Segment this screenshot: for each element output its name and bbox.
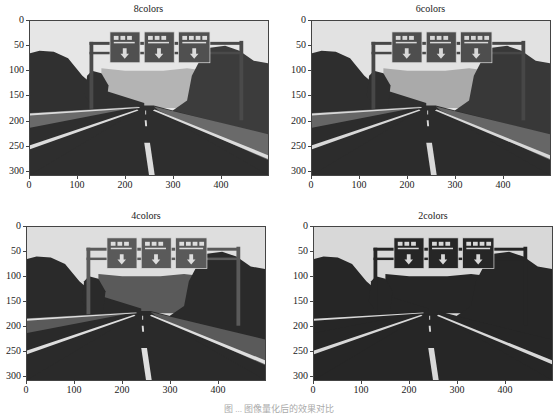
- y-tick-label: 50: [286, 246, 308, 256]
- x-tick-label: 100: [346, 385, 376, 395]
- subplot-title: 2colors: [313, 210, 553, 221]
- y-tick-label: 300: [286, 371, 308, 381]
- y-tick-label: 250: [286, 346, 308, 356]
- x-tick-mark: [457, 381, 458, 384]
- image-plot-area: [313, 226, 553, 381]
- x-tick-mark: [409, 381, 410, 384]
- road-scene-image: [314, 227, 552, 380]
- x-tick-mark: [505, 381, 506, 384]
- figure-caption: 图 ... 图像量化后的效果对比: [0, 402, 558, 415]
- y-tick-mark: [310, 276, 313, 277]
- y-tick-mark: [310, 301, 313, 302]
- y-tick-mark: [310, 226, 313, 227]
- x-tick-label: 300: [442, 385, 472, 395]
- y-tick-mark: [310, 326, 313, 327]
- y-tick-mark: [310, 376, 313, 377]
- x-tick-label: 0: [298, 385, 328, 395]
- y-tick-label: 150: [286, 296, 308, 306]
- x-tick-mark: [361, 381, 362, 384]
- x-tick-mark: [313, 381, 314, 384]
- y-tick-mark: [310, 351, 313, 352]
- y-tick-label: 0: [286, 221, 308, 231]
- x-tick-label: 400: [490, 385, 520, 395]
- y-tick-label: 100: [286, 271, 308, 281]
- y-tick-label: 200: [286, 321, 308, 331]
- x-tick-label: 200: [394, 385, 424, 395]
- y-tick-mark: [310, 251, 313, 252]
